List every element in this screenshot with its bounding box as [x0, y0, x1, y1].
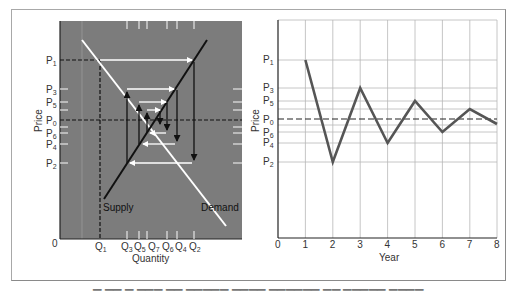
svg-text:P1: P1	[263, 54, 274, 66]
svg-text:P4: P4	[46, 139, 57, 151]
price-labels-left: P1 P3 P5 P0 P6 P4 P2	[46, 55, 57, 170]
svg-text:8: 8	[494, 239, 500, 250]
figure-svg: Supply Demand P1 P3 P5 P0 P6 P4 P2 Price…	[0, 0, 516, 295]
figure-caption-fragment: ▔ ▔▔ ▔ ▔▔▔ ▔▔ ▔▔▔▔▔ ▔▔▔▔ ▔▔▔▔▔▔ ▔▔ ▔▔▔▔▔…	[0, 289, 516, 295]
svg-text:P2: P2	[46, 158, 57, 170]
svg-text:1: 1	[302, 239, 308, 250]
svg-text:P2: P2	[263, 156, 274, 168]
year-tick-labels: 0 1 2 3 4 5 6 7 8	[275, 239, 500, 250]
left-origin-label: 0	[52, 238, 58, 249]
svg-text:P5: P5	[263, 95, 274, 107]
price-series-line	[305, 60, 497, 162]
svg-text:4: 4	[385, 239, 391, 250]
svg-text:3: 3	[357, 239, 363, 250]
svg-text:Q6: Q6	[162, 241, 174, 253]
svg-text:5: 5	[412, 239, 418, 250]
svg-text:P3: P3	[46, 84, 57, 96]
quantity-labels: Q1 Q3 Q5 Q7 Q6 Q4 Q2	[95, 241, 201, 253]
svg-text:P1: P1	[46, 55, 57, 67]
svg-text:P0: P0	[46, 115, 57, 127]
svg-text:P5: P5	[46, 97, 57, 109]
svg-text:0: 0	[275, 239, 281, 250]
svg-text:Q4: Q4	[175, 241, 187, 253]
right-ylabel: Price	[250, 109, 261, 132]
svg-text:P3: P3	[263, 82, 274, 94]
left-xlabel: Quantity	[132, 253, 169, 264]
cobweb-chart: Supply Demand P1 P3 P5 P0 P6 P4 P2 Price…	[33, 21, 242, 264]
svg-text:Q7: Q7	[148, 241, 160, 253]
price-time-chart: P1 P3 P5 P0 P6 P4 P2 Price 0 1 2 3 4 5 6…	[250, 20, 500, 263]
svg-text:Q2: Q2	[189, 241, 201, 253]
left-ylabel: Price	[33, 109, 44, 132]
svg-text:7: 7	[467, 239, 473, 250]
price-labels-right: P1 P3 P5 P0 P6 P4 P2	[263, 54, 274, 168]
supply-label: Supply	[103, 202, 134, 213]
svg-text:Q5: Q5	[134, 241, 146, 253]
right-xlabel: Year	[379, 252, 400, 263]
demand-label: Demand	[201, 202, 239, 213]
svg-text:Q3: Q3	[121, 241, 133, 253]
svg-text:P0: P0	[263, 114, 274, 126]
svg-text:6: 6	[439, 239, 445, 250]
vertical-gridlines	[305, 20, 497, 238]
svg-text:Q1: Q1	[95, 241, 107, 253]
svg-text:2: 2	[330, 239, 336, 250]
